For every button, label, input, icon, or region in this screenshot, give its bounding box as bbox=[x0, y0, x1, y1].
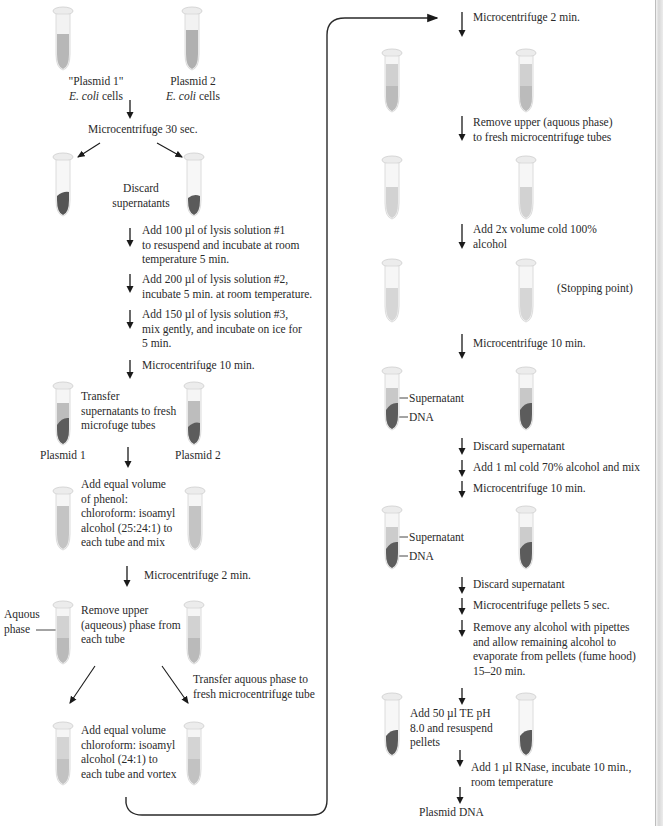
microfuge-tube-dna-pellet-3 bbox=[381, 505, 403, 571]
microfuge-tube-chloroform-1 bbox=[52, 721, 74, 787]
microfuge-tube-chloroform-2 bbox=[183, 721, 205, 787]
page-edge bbox=[655, 0, 663, 826]
step-lysis-solution-3: Add 150 µl of lysis solution #3, mix gen… bbox=[142, 307, 302, 351]
step-discard-supernatant: Discard supernatant bbox=[473, 439, 565, 454]
down-arrow-icon bbox=[457, 620, 467, 638]
down-arrow-icon bbox=[123, 447, 133, 469]
microfuge-tube-plasmid1-culture bbox=[52, 6, 74, 72]
microfuge-tube-pellet-2 bbox=[183, 152, 205, 218]
label-plasmid1-cells: "Plasmid 1" E. coli cells bbox=[36, 74, 156, 103]
microfuge-tube-pellet-1 bbox=[52, 152, 74, 218]
step-lysis-solution-1: Add 100 µl of lysis solution #1 to resus… bbox=[142, 223, 299, 267]
microfuge-tube-r1b bbox=[515, 48, 537, 114]
down-arrow-icon bbox=[457, 598, 467, 616]
microfuge-tube-dna-pellet-2 bbox=[515, 366, 537, 432]
down-arrow-icon bbox=[457, 334, 467, 360]
down-arrow-icon bbox=[457, 12, 467, 38]
result-plasmid-dna: Plasmid DNA bbox=[419, 805, 484, 820]
microfuge-tube-aqueous-1 bbox=[52, 600, 74, 666]
step-microcentrifuge-10min-2: Microcentrifuge 10 min. bbox=[473, 481, 586, 496]
label-plasmid2-cells: Plasmid 2 E. coli cells bbox=[148, 74, 238, 103]
microfuge-tube-te-2 bbox=[515, 692, 537, 758]
microfuge-tube-r2b bbox=[515, 155, 537, 221]
step-add-rnase: Add 1 µl RNase, incubate 10 min., room t… bbox=[471, 760, 631, 789]
step-add-cold-alcohol-100: Add 2x volume cold 100% alcohol bbox=[473, 222, 597, 251]
down-arrow-icon bbox=[125, 310, 135, 330]
step-add-cold-alcohol-70: Add 1 ml cold 70% alcohol and mix bbox=[473, 460, 640, 475]
step-microcentrifuge-10min-right: Microcentrifuge 10 min. bbox=[473, 336, 586, 351]
step-discard-supernatant-2: Discard supernatant bbox=[473, 577, 565, 592]
label-aqueous-phase: Aquous phase bbox=[4, 607, 40, 636]
down-arrow-icon bbox=[457, 688, 467, 706]
microfuge-tube-r2a bbox=[381, 155, 403, 221]
step-transfer-aqueous-phase: Transfer aquous phase to fresh microcent… bbox=[193, 672, 315, 701]
label-dna-2: DNA bbox=[409, 549, 434, 564]
step-microcentrifuge-2min-right: Microcentrifuge 2 min. bbox=[473, 10, 580, 25]
step-microcentrifuge-10min: Microcentrifuge 10 min. bbox=[142, 358, 255, 373]
step-add-chloroform: Add equal volume chloroform: isoamyl alc… bbox=[81, 723, 176, 781]
step-add-phenol-chloroform: Add equal volume of phenol: chloroform: … bbox=[81, 477, 175, 550]
microfuge-tube-aqueous-2 bbox=[183, 600, 205, 666]
microfuge-tube-supernatant-2 bbox=[183, 381, 205, 447]
step-transfer-supernatants: Transfer supernatants to fresh microfuge… bbox=[81, 389, 176, 433]
down-arrow-icon bbox=[457, 481, 467, 499]
step-microcentrifuge-2min: Microcentrifuge 2 min. bbox=[144, 568, 251, 583]
step-microcentrifuge-pellets-5s: Microcentrifuge pellets 5 sec. bbox=[473, 598, 610, 613]
microfuge-tube-r1a bbox=[381, 48, 403, 114]
microfuge-tube-r3b bbox=[515, 258, 537, 324]
down-arrow-icon bbox=[457, 116, 467, 142]
down-arrow-icon bbox=[457, 460, 467, 478]
microfuge-tube-supernatant-1 bbox=[52, 381, 74, 447]
microfuge-tube-dna-pellet-4 bbox=[515, 505, 537, 571]
label-stopping-point: (Stopping point) bbox=[557, 281, 633, 296]
down-arrow-icon bbox=[457, 224, 467, 250]
microfuge-tube-plasmid2-culture bbox=[181, 6, 203, 72]
microfuge-tube-te-1 bbox=[381, 692, 403, 758]
microfuge-tube-dna-pellet-1 bbox=[381, 366, 403, 432]
microfuge-tube-r3a bbox=[381, 258, 403, 324]
step-microcentrifuge-30s: Microcentrifuge 30 sec. bbox=[88, 122, 198, 137]
microfuge-tube-phenol-2 bbox=[184, 486, 206, 552]
step-remove-upper-aqueous-right: Remove upper (aquous phase) to fresh mic… bbox=[473, 115, 613, 144]
down-arrow-icon bbox=[122, 566, 132, 588]
down-arrow-icon bbox=[125, 100, 135, 120]
label-supernatant-2: Supernatant bbox=[409, 530, 464, 545]
down-arrow-icon bbox=[457, 577, 467, 595]
label-plasmid2: Plasmid 2 bbox=[175, 448, 221, 463]
down-arrow-icon bbox=[455, 750, 465, 768]
down-arrow-icon bbox=[457, 438, 467, 456]
down-arrow-icon bbox=[125, 228, 135, 248]
down-arrow-icon bbox=[125, 360, 135, 380]
label-dna: DNA bbox=[409, 410, 434, 425]
step-remove-upper-phase: Remove upper (aqueous) phase from each t… bbox=[81, 603, 181, 647]
down-arrow-icon bbox=[455, 787, 465, 805]
step-discard-supernatants: Discard supernatants bbox=[96, 181, 186, 210]
step-add-te-buffer: Add 50 µl TE pH 8.0 and resuspend pellet… bbox=[410, 706, 493, 750]
down-arrow-icon bbox=[125, 274, 135, 294]
label-supernatant: Supernatant bbox=[409, 391, 464, 406]
step-remove-alcohol-evaporate: Remove any alcohol with pipettes and all… bbox=[473, 620, 636, 678]
step-lysis-solution-2: Add 200 µl of lysis solution #2, incubat… bbox=[142, 272, 312, 301]
microfuge-tube-phenol-1 bbox=[52, 486, 74, 552]
label-plasmid1: Plasmid 1 bbox=[40, 448, 86, 463]
